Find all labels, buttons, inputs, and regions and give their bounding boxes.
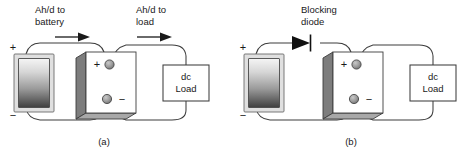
figure-container: + − + − dc Load Ah/d to [0, 0, 461, 155]
pv-module-cell [19, 59, 50, 108]
wire-pv-plus-to-diode [256, 43, 292, 54]
battery-side-face [76, 52, 86, 119]
battery-minus-sign: − [366, 93, 372, 105]
pv-plus-sign: + [10, 41, 16, 53]
subfigure-b: + − + − dc Load Blocking diode (b) [240, 4, 456, 147]
blocking-diode-label-line2: diode [301, 16, 324, 27]
battery-positive-terminal [105, 60, 114, 69]
dc-load-line1: dc [428, 71, 438, 82]
dc-load-line2: Load [175, 83, 196, 94]
dc-load-line1: dc [181, 71, 191, 82]
battery-plus-sign: + [341, 58, 347, 70]
battery-minus-sign: − [119, 93, 125, 105]
battery-negative-terminal [349, 94, 358, 103]
caption-b: (b) [345, 136, 357, 147]
current-arrow-to-battery [55, 33, 90, 42]
flow-to-load-line2: load [136, 16, 154, 27]
dc-load-line2: Load [422, 83, 443, 94]
circuit-diagram: + − + − dc Load Ah/d to [0, 0, 461, 155]
subfigure-a: + − + − dc Load Ah/d to [10, 4, 209, 147]
battery-plus-sign: + [94, 58, 100, 70]
battery-bottom-face [76, 113, 136, 119]
flow-to-battery-line2: battery [35, 16, 64, 27]
battery-side-face [323, 52, 333, 119]
battery-bottom-face [323, 113, 383, 119]
battery-negative-terminal [102, 94, 111, 103]
pv-module-cell [249, 59, 280, 108]
battery-positive-terminal [352, 60, 361, 69]
pv-minus-sign: − [240, 109, 246, 121]
pv-minus-sign: − [10, 109, 16, 121]
pv-plus-sign: + [240, 41, 246, 53]
current-arrow-to-load [137, 33, 172, 42]
caption-a: (a) [98, 136, 110, 147]
flow-to-battery-line1: Ah/d to [35, 4, 65, 15]
blocking-diode [292, 35, 311, 52]
flow-to-load-line1: Ah/d to [136, 4, 166, 15]
blocking-diode-label-line1: Blocking [301, 4, 337, 15]
